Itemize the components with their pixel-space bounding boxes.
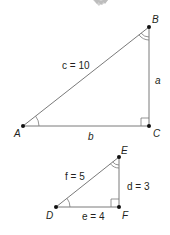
label-side-c: c = 10 [62, 60, 90, 71]
side-f [56, 157, 119, 207]
label-side-e: e = 4 [82, 211, 105, 222]
angle-arc-d [67, 198, 70, 207]
vertex-b [147, 25, 151, 29]
label-side-b: b [88, 131, 94, 142]
label-vertex-e: E [121, 145, 128, 156]
label-vertex-f: F [122, 210, 129, 221]
angle-arc-e-outer [110, 164, 119, 168]
vertex-a [21, 124, 25, 128]
vertex-f [117, 205, 121, 209]
triangle-def: D E F f = 5 d = 3 e = 4 [46, 145, 150, 222]
angle-arc-e-inner [113, 162, 119, 165]
label-vertex-b: B [152, 14, 159, 25]
vertex-c [147, 124, 151, 128]
angle-arc-b-inner [141, 33, 149, 37]
label-side-f: f = 5 [65, 171, 85, 182]
angle-arc-a [36, 116, 39, 126]
label-vertex-a: A [13, 128, 21, 139]
label-side-d: d = 3 [127, 181, 150, 192]
label-vertex-c: C [153, 128, 161, 139]
similar-triangles-diagram: A B C c = 10 a b D E F f = 5 d = 3 e = 4 [0, 0, 170, 235]
label-side-a: a [155, 75, 161, 86]
vertex-d [54, 205, 58, 209]
label-vertex-d: D [46, 210, 53, 221]
side-c [23, 27, 149, 126]
triangle-abc: A B C c = 10 a b [13, 14, 161, 142]
